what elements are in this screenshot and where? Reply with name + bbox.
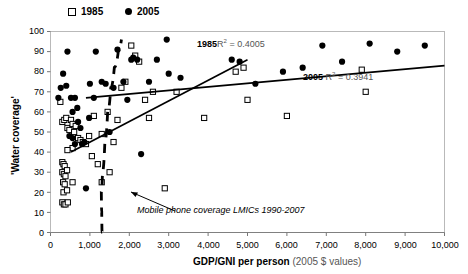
data-point-1985: [162, 186, 167, 191]
y-tick-marks: [47, 32, 51, 233]
data-point-1985: [95, 162, 100, 167]
trendline-1985-year: 1985: [197, 39, 217, 49]
data-point-2005: [77, 125, 83, 131]
data-point-1985: [62, 182, 67, 187]
data-point-2005: [124, 97, 130, 103]
data-point-1985: [129, 43, 134, 48]
data-point-1985: [65, 200, 70, 205]
data-point-2005: [134, 57, 140, 63]
data-point-1985: [245, 97, 250, 102]
trendline-2005-r-sup: 2: [332, 71, 335, 77]
y-tick-label-100: 100: [22, 26, 44, 36]
data-point-1985: [72, 129, 77, 134]
trendline-label-1985: 1985R2 = 0.4005: [197, 38, 265, 49]
x-tick-marks: [51, 233, 445, 237]
x-tick-label-5000: 5,000: [229, 240, 266, 250]
trendline-1985-r-sup: 2: [224, 38, 227, 44]
y-tick-label-90: 90: [22, 46, 44, 56]
data-point-2005: [394, 49, 400, 55]
data-point-2005: [367, 40, 373, 46]
x-tick-label-2000: 2,000: [111, 240, 148, 250]
data-point-1985: [115, 117, 120, 122]
data-point-2005: [86, 115, 92, 121]
data-point-1985: [87, 133, 92, 138]
data-point-2005: [63, 83, 69, 89]
x-axis-title: GDP/GNI per person (2005 $ values): [193, 257, 361, 267]
y-tick-label-30: 30: [22, 167, 44, 177]
data-point-2005: [60, 71, 66, 77]
data-point-2005: [75, 119, 81, 125]
chart-figure: 1985 2005 'Water coverage': [0, 0, 468, 274]
data-point-2005: [300, 65, 306, 71]
x-axis-title-main: GDP/GNI per person: [193, 256, 290, 267]
x-tick-label-7000: 7,000: [308, 240, 345, 250]
data-point-1985: [363, 89, 368, 94]
data-point-1985: [64, 168, 69, 173]
data-point-2005: [319, 42, 325, 48]
data-point-1985: [64, 188, 69, 193]
data-point-1985: [284, 113, 289, 118]
data-point-2005: [69, 109, 75, 115]
trendline-2005-r2-value: = 0.3941: [338, 72, 373, 82]
x-tick-label-1000: 1,000: [71, 240, 108, 250]
y-tick-label-80: 80: [22, 66, 44, 76]
data-point-2005: [154, 57, 160, 63]
data-point-2005: [72, 95, 78, 101]
data-point-1985: [233, 69, 238, 74]
data-point-2005: [69, 135, 75, 141]
x-tick-label-10000: 10,000: [424, 240, 466, 250]
data-point-1985: [65, 147, 70, 152]
data-point-2005: [229, 57, 235, 63]
y-tick-label-20: 20: [22, 188, 44, 198]
data-point-2005: [93, 49, 99, 55]
mobile-phone-coverage-note: Mobile phone coverage LMICs 1990-2007: [137, 205, 305, 215]
data-point-1985: [89, 154, 94, 159]
data-point-2005: [166, 71, 172, 77]
data-point-2005: [55, 95, 61, 101]
x-tick-label-3000: 3,000: [150, 240, 187, 250]
y-tick-label-60: 60: [22, 107, 44, 117]
data-point-2005: [74, 105, 80, 111]
y-tick-label-0: 0: [22, 228, 44, 238]
data-point-2005: [58, 85, 64, 91]
data-point-2005: [120, 79, 126, 85]
data-point-2005: [164, 36, 170, 42]
data-point-1985: [202, 115, 207, 120]
y-tick-label-40: 40: [22, 147, 44, 157]
trendline-2005-year: 2005: [303, 72, 323, 82]
data-point-1985: [241, 65, 246, 70]
data-point-2005: [138, 151, 144, 157]
x-tick-label-6000: 6,000: [268, 240, 305, 250]
data-point-1985: [146, 115, 151, 120]
x-tick-label-9000: 9,000: [387, 240, 424, 250]
data-point-2005: [83, 185, 89, 191]
data-point-1985: [119, 85, 124, 90]
data-point-2005: [103, 81, 109, 87]
data-point-2005: [146, 79, 152, 85]
y-tick-label-10: 10: [22, 208, 44, 218]
data-point-1985: [63, 174, 68, 179]
x-tick-label-0: 0: [32, 240, 69, 250]
data-point-2005: [177, 75, 183, 81]
trendline-label-2005: 2005 R2 = 0.3941: [303, 71, 373, 82]
x-tick-label-8000: 8,000: [347, 240, 384, 250]
data-point-2005: [64, 49, 70, 55]
data-point-1985: [70, 180, 75, 185]
data-point-2005: [72, 141, 78, 147]
data-point-2005: [87, 81, 93, 87]
data-point-2005: [339, 59, 345, 65]
y-tick-label-70: 70: [22, 87, 44, 97]
x-tick-label-4000: 4,000: [190, 240, 227, 250]
data-point-1985: [107, 170, 112, 175]
data-point-2005: [280, 69, 286, 75]
data-point-1985: [111, 139, 116, 144]
x-axis-title-sub: (2005 $ values): [292, 256, 361, 267]
data-point-1985: [142, 97, 147, 102]
y-tick-label-50: 50: [22, 127, 44, 137]
trendline-1985-r2-value: = 0.4005: [229, 39, 264, 49]
data-point-2005: [422, 42, 428, 48]
